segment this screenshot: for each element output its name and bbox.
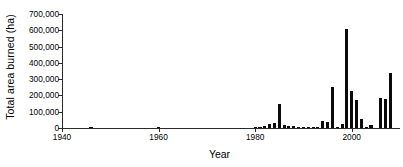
x-axis-title: Year <box>0 148 403 160</box>
y-axis-tick-label: 600,000 <box>16 26 59 34</box>
y-axis-title-text: Total area burned (ha) <box>4 14 16 120</box>
bar <box>345 29 348 128</box>
bar <box>389 73 392 128</box>
bar <box>355 100 358 128</box>
bar <box>341 124 344 128</box>
bar <box>297 127 300 128</box>
y-axis-tick-mark <box>58 14 62 15</box>
bar <box>287 126 290 128</box>
y-axis-tick-mark <box>58 112 62 113</box>
bar <box>369 125 372 128</box>
bar <box>316 127 319 128</box>
y-axis-tick-label: 100,000 <box>16 108 59 116</box>
bar <box>292 126 295 128</box>
bar <box>384 99 387 128</box>
bar <box>273 123 276 128</box>
bar <box>307 127 310 128</box>
x-axis-tick-label: 1980 <box>235 133 275 142</box>
bar <box>263 126 266 128</box>
bar <box>268 124 271 128</box>
bar <box>360 119 363 128</box>
bar <box>278 104 281 128</box>
x-axis-tick-label: 2000 <box>332 133 372 142</box>
bar <box>254 127 257 128</box>
y-axis-tick-label: 400,000 <box>16 59 59 67</box>
x-axis-tick-label: 1940 <box>42 133 82 142</box>
y-axis-tick-mark <box>58 79 62 80</box>
y-axis-tick-mark <box>58 47 62 48</box>
bar <box>283 125 286 128</box>
y-axis-tick-label: 200,000 <box>16 91 59 99</box>
y-axis-tick-mark <box>58 95 62 96</box>
chart-figure: Total area burned (ha) 0100,000200,00030… <box>0 0 403 167</box>
y-axis-tick-mark <box>58 63 62 64</box>
x-axis-tick-labels: 1940196019802000 <box>62 133 403 145</box>
x-axis-line <box>62 128 400 129</box>
bar <box>365 127 368 128</box>
y-axis-tick-labels: 0100,000200,000300,000400,000500,000600,… <box>16 0 59 140</box>
bar <box>331 87 334 128</box>
x-axis-tick-label: 1960 <box>139 133 179 142</box>
bar <box>157 127 160 128</box>
bar <box>89 127 92 128</box>
y-axis-tick-mark <box>58 30 62 31</box>
bar <box>312 127 315 128</box>
bar <box>326 122 329 128</box>
bar <box>258 127 261 128</box>
x-axis-title-text: Year <box>173 148 230 160</box>
bar <box>379 98 382 128</box>
y-axis-tick-label: 500,000 <box>16 43 59 51</box>
y-axis-tick-label: 300,000 <box>16 75 59 83</box>
bar <box>350 91 353 128</box>
bar <box>321 121 324 128</box>
y-axis-tick-label: 700,000 <box>16 10 59 18</box>
bar <box>302 127 305 128</box>
y-axis-line <box>62 14 63 128</box>
bar <box>336 127 339 128</box>
plot-area <box>62 14 400 128</box>
